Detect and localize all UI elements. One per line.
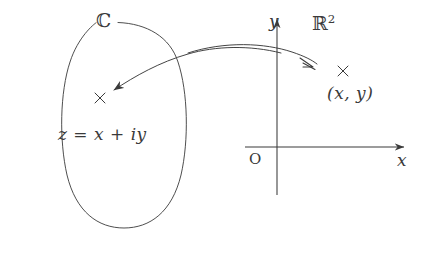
origin-label: O: [249, 152, 261, 167]
complex-point-expression: z = x + iy: [58, 126, 147, 143]
real-point-marker: [338, 66, 348, 76]
cartesian-axes: [245, 19, 404, 195]
real-set-label: ℝ2: [312, 14, 335, 33]
real-point-coordinates: (x, y): [327, 85, 373, 102]
complex-plane-r2-diagram: ℂ ℝ2 z = x + iy (x, y) y x O: [0, 0, 432, 272]
real-set-symbol: ℝ: [312, 12, 328, 34]
real-set-exponent: 2: [328, 12, 336, 26]
y-axis-label: y: [269, 13, 279, 30]
mapping-arrow-to-complex: [114, 47, 281, 90]
chevron-arrowhead-outer: [300, 58, 313, 67]
complex-set-label: ℂ: [96, 11, 111, 30]
x-axis-label: x: [397, 152, 407, 169]
complex-point-marker: [95, 93, 105, 103]
